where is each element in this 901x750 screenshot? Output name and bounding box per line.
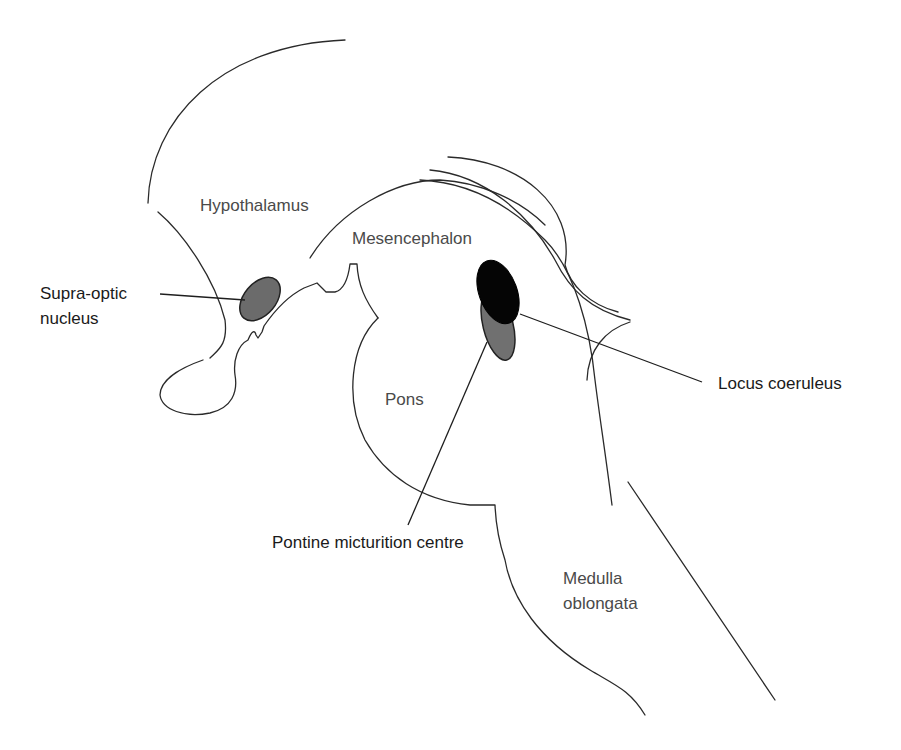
medulla-dorsal-line [628, 482, 775, 700]
locus-coeruleus-leader [520, 314, 702, 382]
pontine-micturition-centre-label: Pontine micturition centre [272, 533, 464, 552]
supra-optic-label-line1: Supra-optic [40, 284, 127, 303]
pontine-micturition-leader [408, 342, 487, 525]
pons-outline [353, 318, 645, 715]
cerebellum-outline [448, 157, 618, 312]
brainstem-diagram: Hypothalamus Mesencephalon Pons Medulla … [0, 0, 901, 750]
supra-optic-leader [160, 294, 245, 300]
supra-optic-nucleus-shape [232, 270, 289, 329]
cerebrum-outline [148, 40, 345, 203]
hypothalamus-wall [158, 212, 226, 358]
pons-label: Pons [385, 390, 424, 409]
locus-coeruleus-label: Locus coeruleus [718, 374, 842, 393]
supra-optic-label-line2: nucleus [40, 309, 99, 328]
hypothalamus-label: Hypothalamus [200, 196, 309, 215]
mesencephalon-label: Mesencephalon [352, 229, 472, 248]
locus-coeruleus-shape [469, 254, 527, 329]
medulla-label-line1: Medulla [563, 569, 623, 588]
medulla-label-line2: oblongata [563, 594, 638, 613]
